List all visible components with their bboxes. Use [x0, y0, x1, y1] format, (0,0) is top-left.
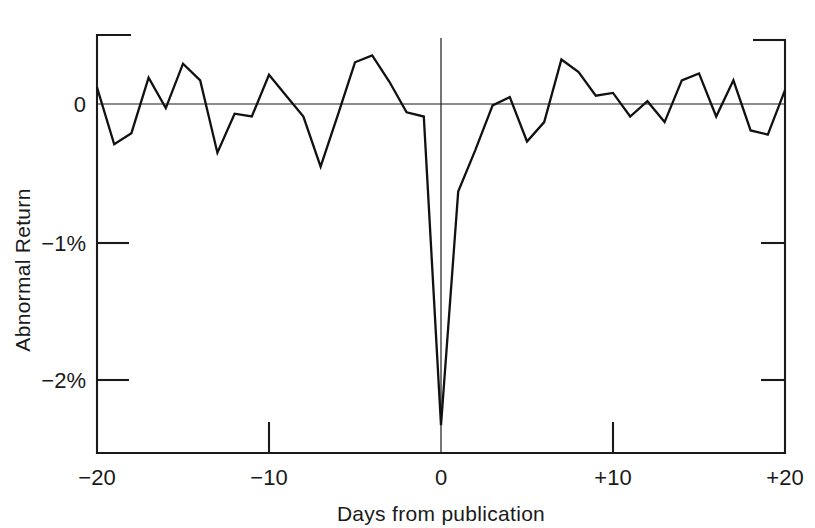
x-tick-label-0: 0	[435, 465, 447, 490]
x-tick-label-minus10: −10	[250, 465, 287, 490]
x-axis-title: Days from publication	[337, 502, 545, 525]
abnormal-return-chart: 0 −1% −2% −20 −10 0 +10 +20 Abnormal Ret…	[0, 0, 815, 528]
x-tick-label-minus20: −20	[78, 465, 115, 490]
y-axis-title: Abnormal Return	[11, 188, 34, 351]
y-tick-label-minus2: −2%	[41, 368, 86, 393]
x-tick-label-plus10: +10	[594, 465, 631, 490]
x-tick-label-plus20: +20	[766, 465, 803, 490]
chart-background	[0, 0, 815, 528]
y-tick-label-0: 0	[74, 92, 86, 117]
y-tick-label-minus1: −1%	[41, 231, 86, 256]
